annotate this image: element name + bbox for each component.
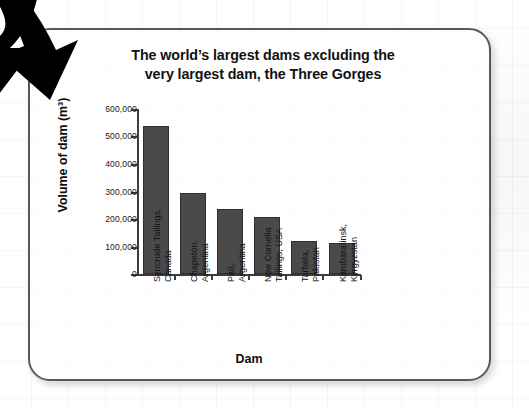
y-tick-label: 600,000 <box>81 104 137 114</box>
x-tick-mark <box>248 275 250 280</box>
y-tick-label: 500,000 <box>81 131 137 141</box>
category-label: Tarbela,Pakistan <box>300 247 322 282</box>
x-tick-mark <box>174 275 176 280</box>
category-label-line: Kambaratinsk, <box>338 224 349 282</box>
y-axis-line <box>137 109 139 275</box>
y-tick-label: 0 <box>81 269 137 279</box>
x-tick-mark <box>211 275 213 280</box>
category-label-line: Syncrude Tailings, <box>152 208 163 282</box>
category-label-line: Pati, <box>226 243 237 282</box>
plot-area: 600,000 500,000 400,000 300,000 200,000 … <box>30 30 491 381</box>
category-label-line: Tailings, USA <box>274 227 285 282</box>
category-label-line: Kyrgyzstan <box>349 224 360 282</box>
x-tick-mark <box>360 275 362 280</box>
category-label-line: New Cornelia <box>263 227 274 282</box>
category-label-line: Pakistan <box>311 247 322 282</box>
category-label: Syncrude Tailings,Canada <box>152 208 174 282</box>
category-label-line: Chapetón, <box>189 240 200 282</box>
category-label-line: Tarbela, <box>300 247 311 282</box>
category-label: Chapetón,Argentina <box>189 240 211 282</box>
y-axis-title: Volume of dam (m³) <box>56 75 70 235</box>
category-label: Kambaratinsk,Kyrgyzstan <box>338 224 360 282</box>
category-label: Pati,Argentina <box>226 243 248 282</box>
x-tick-mark <box>322 275 324 280</box>
category-label-line: Argentina <box>200 240 211 282</box>
y-tick-label: 200,000 <box>81 214 137 224</box>
x-axis-title: Dam <box>137 352 361 366</box>
category-label: New CorneliaTailings, USA <box>263 227 285 282</box>
category-label-line: Canada <box>163 208 174 282</box>
chart-card: The world’s largest dams excluding the v… <box>28 28 491 381</box>
y-tick-label: 300,000 <box>81 187 137 197</box>
y-tick-label: 400,000 <box>81 159 137 169</box>
category-label-line: Argentina <box>237 243 248 282</box>
y-tick-label: 100,000 <box>81 242 137 252</box>
x-tick-mark <box>285 275 287 280</box>
